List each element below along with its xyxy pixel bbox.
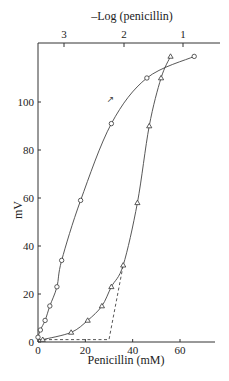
triangle-data-point	[147, 123, 152, 127]
x-tick-label: 0	[35, 344, 41, 356]
annotations: ↗	[107, 94, 115, 104]
triangle-data-point	[121, 263, 126, 267]
series-markers	[36, 54, 197, 342]
y-tick-label: 80	[23, 144, 35, 156]
y-tick-label: 40	[23, 240, 35, 252]
x2-axis-title: –Log (penicillin)	[90, 9, 173, 23]
x2-tick-label: 1	[180, 28, 186, 40]
triangle-data-point	[168, 54, 173, 58]
circle-data-point	[55, 285, 59, 289]
circle-data-point	[43, 318, 47, 322]
circle-data-point	[192, 54, 196, 58]
x-tick-label: 60	[175, 344, 187, 356]
triangle-data-point	[135, 200, 140, 204]
annotation-arrow: ↗	[107, 94, 115, 104]
x2-tick-label: 3	[61, 28, 67, 40]
x-axis-title: Penicillin (mM)	[88, 353, 165, 367]
y-tick-label: 20	[23, 288, 35, 300]
circle-data-point	[145, 76, 149, 80]
triangle-data-point	[109, 284, 114, 288]
circle-data-point	[38, 328, 42, 332]
triangle-data-point	[158, 75, 163, 79]
circle-data-point	[109, 121, 113, 125]
circle-series-line	[38, 56, 194, 337]
circle-data-point	[59, 258, 63, 262]
triangle-data-point	[99, 303, 104, 307]
axes	[38, 43, 220, 342]
x2-tick-label: 2	[121, 28, 127, 40]
circle-data-point	[78, 198, 82, 202]
chart: 0204060020406080100321 Penicillin (mM) –…	[0, 0, 229, 381]
series-lines	[38, 56, 194, 339]
y-tick-label: 100	[18, 96, 35, 108]
y-tick-label: 0	[29, 336, 35, 348]
circle-data-point	[36, 335, 40, 339]
circle-data-point	[48, 304, 52, 308]
y-axis-title: mV	[11, 201, 25, 219]
